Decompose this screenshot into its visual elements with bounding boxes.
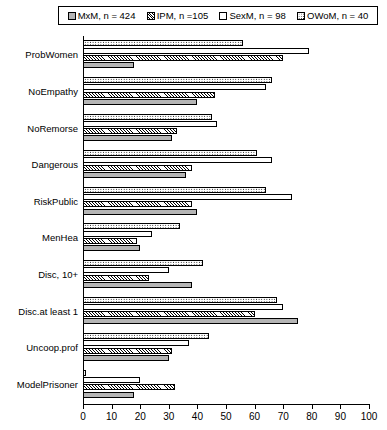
bar-sexm: [83, 267, 169, 273]
legend-label: OWoM, n = 40: [307, 10, 368, 21]
x-tick-mark: [255, 405, 256, 409]
x-tick-label: 100: [361, 411, 378, 422]
x-tick-mark: [226, 405, 227, 409]
bar-sexm: [83, 340, 189, 346]
bar-mxm: [83, 62, 134, 68]
legend-item-owom: OWoM, n = 40: [297, 10, 368, 21]
legend-swatch-owom-icon: [297, 12, 305, 20]
bar-sexm: [83, 121, 217, 127]
legend-label: SexM, n = 98: [229, 10, 285, 21]
legend-item-sexm: SexM, n = 98: [219, 10, 285, 21]
plot-area: [83, 36, 369, 402]
legend-swatch-ipm-icon: [147, 12, 155, 20]
legend-swatch-mxm-icon: [68, 12, 76, 20]
x-tick-label: 30: [163, 411, 174, 422]
bar-ipm: [83, 128, 177, 134]
x-tick-label: 80: [306, 411, 317, 422]
y-axis-label: Uncoop.prof: [26, 342, 78, 353]
bar-sexm: [83, 157, 272, 163]
bar-owom: [83, 333, 209, 339]
bar-sexm: [83, 84, 266, 90]
bar-owom: [83, 223, 180, 229]
legend-item-ipm: IPM, n =105: [147, 10, 209, 21]
bar-mxm: [83, 99, 197, 105]
y-axis-label: MenHea: [42, 232, 78, 243]
bar-mxm: [83, 245, 140, 251]
bar-mxm: [83, 135, 172, 141]
y-axis-label: Disc, 10+: [38, 268, 78, 279]
bar-owom: [83, 77, 272, 83]
x-tick-mark: [83, 405, 84, 409]
y-axis-category-labels: ProbWomenNoEmpathyNoRemorseDangerousRisk…: [0, 36, 78, 404]
x-tick-mark: [369, 405, 370, 409]
legend-swatch-sexm-icon: [219, 12, 227, 20]
legend-item-mxm: MxM, n = 424: [68, 10, 136, 21]
bar-sexm: [83, 231, 152, 237]
x-tick-mark: [140, 405, 141, 409]
bar-ipm: [83, 384, 175, 390]
y-axis-label: RiskPublic: [34, 195, 78, 206]
bar-ipm: [83, 348, 172, 354]
bar-mxm: [83, 355, 169, 361]
bar-sexm: [83, 48, 309, 54]
bar-mxm: [83, 209, 197, 215]
legend-label: IPM, n =105: [157, 10, 209, 21]
chart-legend: MxM, n = 424IPM, n =105SexM, n = 98OWoM,…: [58, 6, 378, 25]
x-tick-mark: [283, 405, 284, 409]
y-axis-label: Disc.at least 1: [18, 305, 78, 316]
y-axis-label: NoEmpathy: [28, 85, 78, 96]
bar-ipm: [83, 311, 255, 317]
x-tick-mark: [112, 405, 113, 409]
bar-mxm: [83, 282, 192, 288]
legend-label: MxM, n = 424: [78, 10, 136, 21]
x-tick-mark: [340, 405, 341, 409]
x-tick-mark: [197, 405, 198, 409]
x-tick-label: 70: [278, 411, 289, 422]
bar-ipm: [83, 92, 215, 98]
y-axis-label: ProbWomen: [25, 49, 78, 60]
bar-mxm: [83, 318, 298, 324]
bar-mxm: [83, 392, 134, 398]
bar-owom: [83, 370, 86, 376]
bar-mxm: [83, 172, 186, 178]
bar-owom: [83, 150, 257, 156]
x-tick-label: 90: [335, 411, 346, 422]
bar-ipm: [83, 165, 192, 171]
bar-owom: [83, 260, 203, 266]
bar-owom: [83, 114, 212, 120]
bar-sexm: [83, 194, 292, 200]
x-tick-label: 40: [192, 411, 203, 422]
bar-owom: [83, 187, 266, 193]
x-axis-ticks: 0102030405060708090100: [83, 405, 370, 429]
chart-figure: MxM, n = 424IPM, n =105SexM, n = 98OWoM,…: [0, 0, 387, 430]
y-axis-label: ModelPrisoner: [17, 378, 78, 389]
bar-ipm: [83, 55, 283, 61]
bar-sexm: [83, 304, 283, 310]
y-axis-label: NoRemorse: [27, 122, 78, 133]
bar-owom: [83, 297, 277, 303]
x-tick-label: 20: [135, 411, 146, 422]
bar-owom: [83, 40, 243, 46]
x-tick-label: 0: [80, 411, 86, 422]
bar-ipm: [83, 238, 137, 244]
y-axis-label: Dangerous: [32, 159, 78, 170]
x-tick-label: 10: [106, 411, 117, 422]
bar-ipm: [83, 275, 149, 281]
bar-ipm: [83, 201, 192, 207]
x-tick-mark: [169, 405, 170, 409]
bar-sexm: [83, 377, 140, 383]
x-tick-label: 60: [249, 411, 260, 422]
x-tick-mark: [312, 405, 313, 409]
x-tick-label: 50: [220, 411, 231, 422]
